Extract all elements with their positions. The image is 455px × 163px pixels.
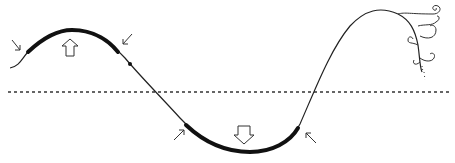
- pointer-arrow-icon: [12, 40, 20, 50]
- wave-diagram: [0, 0, 455, 163]
- up-arrow-icon: [62, 39, 78, 56]
- trough-thick-segment: [186, 125, 298, 152]
- spiral-ornament: [398, 5, 440, 80]
- pointer-arrow-icon: [123, 34, 132, 44]
- curve-dot: [128, 62, 132, 66]
- pointer-arrow-icon: [174, 130, 184, 140]
- down-arrow-icon: [234, 126, 254, 144]
- pointer-arrow-icon: [306, 133, 316, 143]
